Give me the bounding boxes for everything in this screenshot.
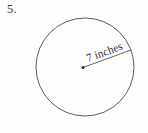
worksheet-problem-container: 5. 7 inches [0,0,148,133]
circle-figure: 7 inches [0,0,148,133]
radius-measure-label: 7 inches [85,40,125,64]
circle-center-dot [82,66,85,69]
